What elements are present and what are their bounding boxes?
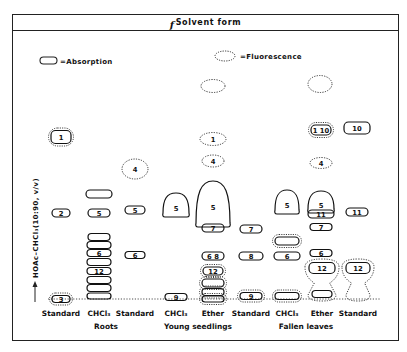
spot-roots-standard-2-5: 5 xyxy=(125,206,145,215)
lane-label-roots-chcl3: CHCl₃ xyxy=(88,309,111,318)
spot-number: 7 xyxy=(249,226,254,234)
spot-number: 1 xyxy=(211,136,216,144)
spot-leaves-ether-4: 4 xyxy=(310,158,332,169)
spot-roots-chcl3-3 xyxy=(86,190,112,198)
spot-number: 6 xyxy=(97,250,102,258)
spot-seedlings-ether-1: 1 xyxy=(200,133,226,146)
group-label-0: Roots xyxy=(94,322,118,331)
spot-number: 12 xyxy=(317,265,327,273)
group-label-1: Young seedlings xyxy=(163,322,232,331)
spot-leaves-chcl3-6: 6 xyxy=(274,252,300,261)
spot-number: 4 xyxy=(133,166,138,174)
legend: =Absorption =Fluorescence xyxy=(40,51,302,66)
spot-leaves-chcl3-32 xyxy=(273,235,302,248)
spot-leaves-chcl3-34 xyxy=(273,290,302,302)
legend-absorption: =Absorption xyxy=(60,58,113,66)
fluorescence-spot-icon xyxy=(201,80,225,93)
spot-number: 6 xyxy=(133,252,138,260)
spot-number: 12 xyxy=(94,268,104,276)
group-labels: RootsYoung seedlingsFallen leaves xyxy=(94,322,334,331)
y-axis-title: HOAc–CHCl₃(10:90, v/v) xyxy=(32,178,40,278)
spot-number: 5 xyxy=(97,210,102,218)
absorption-spot-icon xyxy=(86,190,112,198)
spot-roots-chcl3-6 xyxy=(87,242,111,249)
fluorescence-legend-icon xyxy=(215,51,235,61)
spot-seedlings-standard-8: 8 xyxy=(239,252,263,261)
lane-label-seedlings-chcl3: CHCl₃ xyxy=(165,309,188,318)
spot-number: 6 xyxy=(319,250,324,258)
absorption-spot-icon xyxy=(312,291,332,298)
lane-label-roots-standard-2: Standard xyxy=(116,309,154,318)
spot-leaves-ether-7: 7 xyxy=(310,224,332,232)
y-axis-arrowhead-icon xyxy=(33,281,38,287)
spot-leaves-ether-35 xyxy=(308,76,332,93)
spot-roots-standard-2-4: 4 xyxy=(122,159,148,179)
spot-leaves-ether-6: 6 xyxy=(310,250,332,258)
spot-seedlings-ether-7: 7 xyxy=(202,224,224,233)
fluorescence-spot-icon xyxy=(308,76,332,93)
spot-number: 12 xyxy=(353,265,363,273)
spot-number: 9 xyxy=(174,294,179,302)
spot-number: 7 xyxy=(211,225,216,233)
lane-labels: StandardCHCl₃StandardCHCl₃EtherStandardC… xyxy=(42,309,377,318)
spot-number: 11 xyxy=(352,209,362,217)
lane-label-roots-standard: Standard xyxy=(42,309,80,318)
spot-number: 9 xyxy=(249,293,254,301)
spot-leaves-ether-12: 12 xyxy=(309,263,335,274)
spot-leaves-ether-11: 11 xyxy=(308,210,334,219)
tlc-chromatogram: =Absorption =Fluorescence HOAc–CHCl₃(10:… xyxy=(0,0,407,352)
absorption-spot-icon xyxy=(87,259,111,266)
fluorescence-flasks xyxy=(305,259,374,301)
spot-roots-chcl3-5: 5 xyxy=(88,209,110,218)
spot-number: 7 xyxy=(319,224,324,232)
spot-roots-chcl3-8 xyxy=(87,259,111,266)
spot-number: 3 xyxy=(59,296,64,304)
spot-leaves-standard-11: 11 xyxy=(346,208,368,217)
spot-number: 5 xyxy=(133,207,138,215)
spot-leaves-chcl3-5: 5 xyxy=(275,190,300,214)
spot-seedlings-chcl3-5: 5 xyxy=(163,193,190,217)
spot-number: 12 xyxy=(208,268,218,276)
spot-number: 2 xyxy=(59,210,64,218)
spot-seedlings-ether-4: 4 xyxy=(202,155,224,167)
spot-number: 10 xyxy=(352,125,362,133)
spot-number: 5 xyxy=(174,205,179,213)
spot-number: 8 xyxy=(249,253,254,261)
spot-seedlings-ether-18 xyxy=(201,80,225,93)
spot-roots-chcl3-6: 6 xyxy=(87,250,111,258)
spot-number: 5 xyxy=(211,204,216,212)
y-axis-label: HOAc–CHCl₃(10:90, v/v) xyxy=(32,178,40,302)
spot-roots-chcl3-10 xyxy=(87,277,111,284)
absorption-spot-icon xyxy=(275,293,299,300)
spot-seedlings-standard-7: 7 xyxy=(240,225,262,234)
absorption-spot-icon xyxy=(275,237,299,245)
spots: 12356124565914576 812789561 104511761210… xyxy=(49,76,371,306)
spot-number: 4 xyxy=(211,158,216,166)
spot-roots-standard-1: 1 xyxy=(49,128,74,146)
spot-seedlings-ether-25 xyxy=(200,277,227,290)
spot-seedlings-ether-12: 12 xyxy=(201,265,226,278)
spot-number: 6 8 xyxy=(207,253,219,261)
lane-label-seedlings-standard: Standard xyxy=(232,309,270,318)
spot-roots-standard-3: 3 xyxy=(50,293,73,305)
lane-label-leaves-chcl3: CHCl₃ xyxy=(276,309,299,318)
spot-roots-chcl3-12: 12 xyxy=(87,268,111,276)
spot-leaves-standard-10: 10 xyxy=(344,122,370,134)
spot-seedlings-chcl3-9: 9 xyxy=(165,294,187,302)
spot-seedlings-standard-9: 9 xyxy=(238,290,265,302)
absorption-spot-icon xyxy=(87,285,111,292)
spot-number: 11 xyxy=(316,211,326,219)
fluorescence-halo-icon xyxy=(273,290,302,302)
absorption-spot-icon xyxy=(87,242,111,249)
absorption-legend-icon xyxy=(40,57,57,64)
spot-number: 1 10 xyxy=(313,127,330,135)
spot-number: 1 xyxy=(59,134,64,142)
spot-leaves-standard-12: 12 xyxy=(346,263,370,274)
legend-fluorescence: =Fluorescence xyxy=(240,53,302,61)
spot-roots-standard-2: 2 xyxy=(52,209,70,218)
spot-roots-chcl3-5 xyxy=(88,234,110,241)
spot-seedlings-ether-6-8: 6 8 xyxy=(202,252,224,261)
spot-seedlings-ether-5: 5 xyxy=(196,181,231,227)
absorption-spot-icon xyxy=(87,293,111,299)
spot-number: 5 xyxy=(319,202,324,210)
